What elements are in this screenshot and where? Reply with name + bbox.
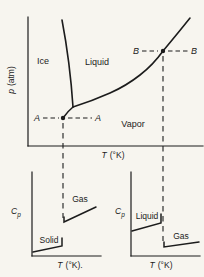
solid-phase-label: Solid xyxy=(40,235,59,245)
point-b-right-label: B xyxy=(191,46,197,56)
cp-vaporization-chart: Cp Liquid Gas T(°K) xyxy=(115,172,200,270)
point-a-right-label: A xyxy=(94,113,101,123)
vapor-region-label: Vapor xyxy=(121,119,144,129)
phase-diagram: Ice Liquid Vapor A A B B p(atm) T(°K) xyxy=(6,17,203,241)
liquid-region-label: Liquid xyxy=(85,57,109,67)
gas-phase-label-right: Gas xyxy=(173,231,189,241)
gas-cp-line-right xyxy=(164,242,199,247)
t-axis-label: T(°K) xyxy=(102,150,125,160)
liquid-phase-label: Liquid xyxy=(136,211,159,221)
point-b-marker xyxy=(161,49,165,53)
fusion-curve xyxy=(62,20,73,107)
gas-cp-line-left xyxy=(64,207,96,222)
gas-phase-label-left: Gas xyxy=(72,194,88,204)
point-a-marker xyxy=(61,116,65,120)
cp-sublimation-chart: Cp Solid Gas T(°K). xyxy=(11,172,101,270)
textbook-figure-page: Ice Liquid Vapor A A B B p(atm) T(°K) Cp… xyxy=(0,0,204,277)
cp-left-x-axis-label: T(°K). xyxy=(57,260,82,270)
ice-region-label: Ice xyxy=(37,56,49,66)
cp-right-axis-label: Cp xyxy=(115,206,125,219)
cp-right-x-axis-label: T(°K) xyxy=(150,260,173,270)
sublimation-curve xyxy=(63,107,73,118)
figure-canvas: Ice Liquid Vapor A A B B p(atm) T(°K) Cp… xyxy=(0,0,204,277)
p-axis-label: p(atm) xyxy=(6,66,16,95)
point-a-left-label: A xyxy=(33,113,40,123)
point-b-left-label: B xyxy=(133,46,139,56)
cp-left-axis-label: Cp xyxy=(11,206,21,219)
